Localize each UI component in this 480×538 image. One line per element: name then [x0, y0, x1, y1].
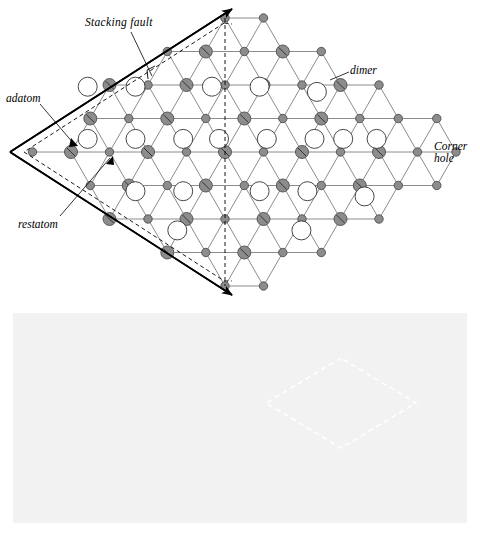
bond [206, 219, 225, 253]
adatom [168, 221, 187, 240]
adatom [355, 187, 374, 206]
atom [259, 14, 267, 22]
bond [225, 186, 244, 220]
bond [302, 52, 321, 86]
atom [356, 114, 364, 122]
adatom [250, 182, 269, 201]
adatom [298, 182, 317, 201]
atom [182, 148, 190, 156]
atom [202, 248, 210, 256]
atom [259, 148, 267, 156]
label-dimer: dimer [350, 64, 377, 76]
label-corner-hole-line2: hole [434, 152, 454, 164]
adatom [334, 129, 353, 148]
atom [317, 248, 325, 256]
bond [225, 52, 244, 86]
atom [125, 114, 133, 122]
bond [379, 186, 398, 220]
stm-adatom-spots [13, 313, 467, 523]
atom [28, 148, 36, 156]
label-stacking-fault: Stacking fault [85, 16, 153, 28]
atom [375, 215, 383, 223]
atom [279, 248, 287, 256]
adatom [126, 129, 145, 148]
adatom [126, 182, 145, 201]
figure-si111-7x7: Stacking fault adatom restatom dimer Cor… [0, 0, 480, 538]
adatom [307, 82, 326, 101]
bond [167, 152, 186, 186]
adatom [174, 182, 193, 201]
label-corner-hole-line1: Corner [434, 140, 467, 152]
bond [398, 119, 417, 153]
adatom [78, 77, 97, 96]
bond [264, 253, 283, 287]
atom [202, 114, 210, 122]
atom [394, 181, 402, 189]
bond [244, 18, 263, 52]
atom [433, 114, 441, 122]
bond [110, 119, 129, 153]
adatom [202, 77, 221, 96]
atom [86, 181, 94, 189]
bond [379, 85, 398, 119]
adatom [78, 129, 97, 148]
adatom [367, 129, 386, 148]
atom [317, 181, 325, 189]
lattice-group [28, 14, 460, 290]
stm-image-svg [13, 313, 467, 523]
atom [394, 114, 402, 122]
das-model-schematic: Stacking fault adatom restatom dimer Cor… [0, 0, 480, 300]
atom [163, 181, 171, 189]
bond [244, 152, 263, 186]
atom [298, 81, 306, 89]
atom [279, 114, 287, 122]
adatom [174, 129, 193, 148]
bond [398, 152, 417, 186]
atom [413, 148, 421, 156]
atom [240, 47, 248, 55]
adatom [305, 129, 324, 148]
atom [375, 81, 383, 89]
bond [148, 186, 167, 220]
das-model-svg [0, 0, 480, 300]
atom [144, 215, 152, 223]
adatom [210, 129, 229, 148]
adatom [250, 77, 269, 96]
bond [360, 85, 379, 119]
bond [90, 152, 109, 186]
atom [336, 148, 344, 156]
adatom [292, 221, 311, 240]
stm-image-panel [13, 313, 467, 523]
label-restatom: restatom [18, 218, 58, 230]
atom [240, 181, 248, 189]
label-adatom: adatom [6, 92, 41, 104]
label-corner-hole: Corner hole [434, 140, 467, 164]
adatom [257, 129, 276, 148]
atom [259, 282, 267, 290]
atom [105, 148, 113, 156]
atom [317, 47, 325, 55]
bond [283, 85, 302, 119]
atom [433, 181, 441, 189]
bond [321, 152, 340, 186]
